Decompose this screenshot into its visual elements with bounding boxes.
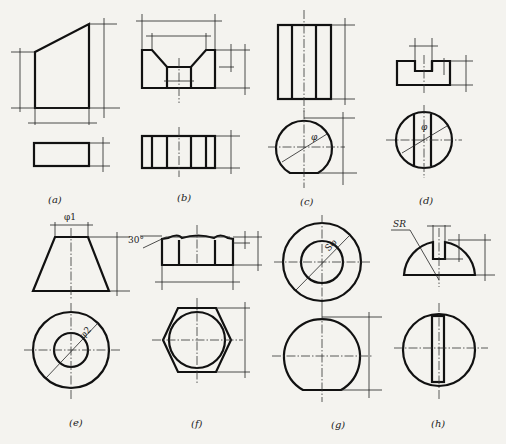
caption-g: (g) xyxy=(331,419,345,430)
panel-b: (b) xyxy=(136,14,250,203)
front-view-c xyxy=(278,25,331,99)
front-view-d xyxy=(397,61,450,85)
caption-f: (f) xyxy=(191,418,203,429)
front-view-b xyxy=(142,50,215,88)
caption-d: (d) xyxy=(419,195,433,206)
svg-text:φ2: φ2 xyxy=(78,325,94,341)
svg-text:30°: 30° xyxy=(128,235,144,245)
svg-text:φ1: φ1 xyxy=(64,212,76,222)
caption-a: (a) xyxy=(48,194,62,205)
svg-text:φ: φ xyxy=(421,122,428,132)
front-view-a xyxy=(35,24,89,108)
svg-text:Sφ: Sφ xyxy=(323,237,339,253)
front-view-h xyxy=(404,242,475,275)
panel-g: Sφ (g) xyxy=(272,215,382,430)
panel-c: φ (c) xyxy=(268,10,357,207)
panel-e: φ1 φ2 (e) xyxy=(24,212,130,428)
caption-b: (b) xyxy=(177,192,191,203)
diameter-dim-c xyxy=(282,134,327,162)
top-view-a xyxy=(34,143,89,166)
panel-a: (a) xyxy=(11,18,120,205)
drawing-sheet: (a) (b) xyxy=(0,0,506,444)
panel-f: 30° (f) xyxy=(128,225,262,429)
caption-h: (h) xyxy=(431,418,445,429)
svg-text:SR: SR xyxy=(393,219,406,229)
svg-text:φ: φ xyxy=(311,132,318,142)
caption-e: (e) xyxy=(69,417,83,428)
panel-h: SR (h) xyxy=(391,219,495,429)
caption-c: (c) xyxy=(300,196,314,207)
front-view-f xyxy=(162,236,233,266)
panel-d: φ (d) xyxy=(386,38,473,206)
